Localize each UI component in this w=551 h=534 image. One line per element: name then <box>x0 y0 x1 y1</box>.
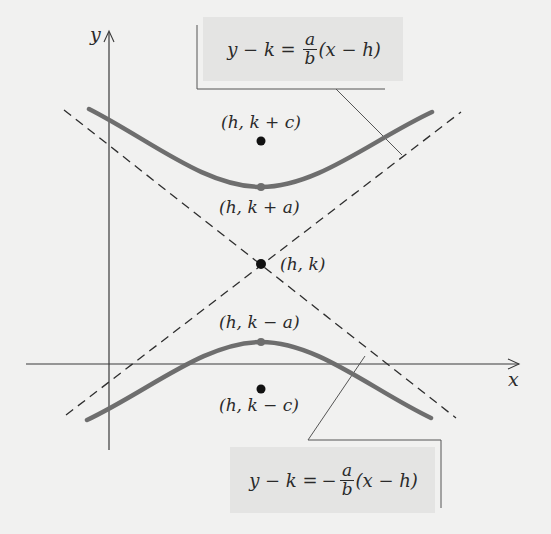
vertex-lower-point <box>257 338 265 346</box>
fraction-numerator: a <box>303 31 317 50</box>
focus-lower-point <box>257 385 266 394</box>
slope-fraction: a b <box>340 462 355 499</box>
slope-fraction: a b <box>303 31 318 68</box>
fraction-denominator: b <box>340 481 355 499</box>
vertex-upper-point <box>257 183 265 191</box>
center-label: (h, k) <box>280 256 325 273</box>
fraction-denominator: b <box>303 50 318 68</box>
vertex-upper-label: (h, k + a) <box>219 199 300 216</box>
x-axis-label: x <box>508 370 519 389</box>
equation-sign: − <box>320 470 339 491</box>
equation-lhs: y − k = <box>225 39 297 60</box>
equation-rhs: (x − h) <box>356 470 418 491</box>
fraction-numerator: a <box>340 462 354 481</box>
equation-lhs: y − k = <box>247 470 319 491</box>
y-axis <box>104 31 114 450</box>
focus-upper-label: (h, k + c) <box>221 114 301 131</box>
x-axis <box>26 359 519 369</box>
vertex-lower-label: (h, k − a) <box>219 314 300 331</box>
equation-rhs: (x − h) <box>318 39 380 60</box>
asymptote-equation-positive: y − k = a b (x − h) <box>203 17 403 81</box>
y-axis-label: y <box>90 25 101 44</box>
focus-upper-point <box>257 137 266 146</box>
asymptote-equation-negative: y − k = − a b (x − h) <box>230 447 435 513</box>
center-point <box>256 259 266 269</box>
focus-lower-label: (h, k − c) <box>219 397 299 414</box>
